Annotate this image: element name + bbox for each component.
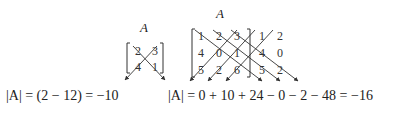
right-ext-1-0: 4: [256, 47, 268, 59]
left-cell-1-0: 4: [132, 61, 144, 73]
right-determinant-equation: |A| = 0 + 10 + 24 − 0 − 2 − 48 = −16: [168, 88, 373, 104]
left-cell-0-1: 3: [149, 45, 161, 57]
right-cell-1-2: 1: [231, 47, 243, 59]
right-cell-0-2: 3: [231, 30, 243, 42]
left-matrix-label: A: [140, 20, 148, 36]
right-cell-2-0: 5: [195, 64, 207, 76]
right-cell-1-1: 0: [213, 47, 225, 59]
right-cell-2-2: 6: [231, 64, 243, 76]
left-cell-1-1: 1: [149, 61, 161, 73]
right-ext-2-1: 2: [274, 64, 286, 76]
right-cell-0-0: 1: [195, 30, 207, 42]
left-cell-0-0: 2: [132, 45, 144, 57]
right-ext-1-1: 0: [274, 47, 286, 59]
right-cell-2-1: 2: [213, 64, 225, 76]
right-matrix-label: A: [216, 6, 224, 22]
right-cell-1-0: 4: [195, 47, 207, 59]
right-ext-0-0: 1: [256, 30, 268, 42]
right-ext-0-1: 2: [274, 30, 286, 42]
right-ext-2-0: 5: [256, 64, 268, 76]
left-determinant-equation: |A| = (2 − 12) = −10: [6, 88, 119, 104]
right-cell-0-1: 2: [213, 30, 225, 42]
